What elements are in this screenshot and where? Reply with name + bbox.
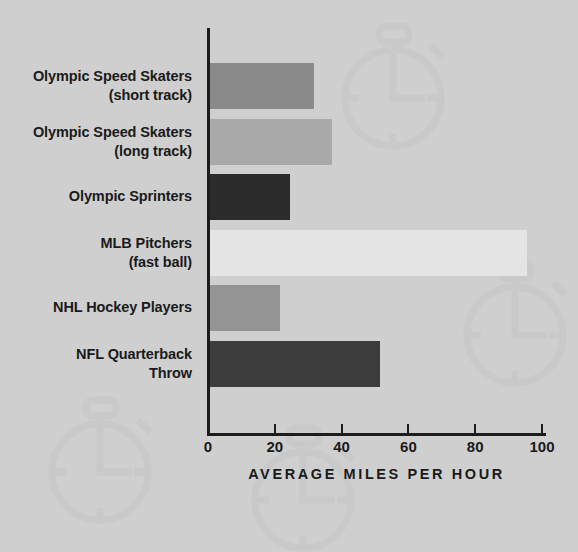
bar-fill xyxy=(210,174,290,220)
x-tick-60 xyxy=(407,424,409,433)
x-tick-20 xyxy=(274,424,276,433)
bar-1 xyxy=(210,63,314,109)
plot-area xyxy=(207,28,544,433)
category-label-line1: NHL Hockey Players xyxy=(0,298,192,317)
category-label-line1: Olympic Speed Skaters xyxy=(0,123,192,142)
x-axis-title: AVERAGE MILES PER HOUR xyxy=(207,466,546,482)
category-label-line2: Throw xyxy=(0,364,192,383)
bar-6 xyxy=(210,341,380,387)
bar-fill xyxy=(210,119,332,165)
x-tick-label-100: 100 xyxy=(529,438,554,455)
x-tick-label-80: 80 xyxy=(467,438,484,455)
bar-fill xyxy=(210,230,527,276)
category-label-line2: (long track) xyxy=(0,142,192,161)
category-label-line1: NFL Quarterback xyxy=(0,345,192,364)
category-label-line1: Olympic Sprinters xyxy=(0,187,192,206)
category-label-line2: (short track) xyxy=(0,86,192,105)
category-label-line1: MLB Pitchers xyxy=(0,234,192,253)
x-tick-label-40: 40 xyxy=(333,438,350,455)
x-axis-ticks xyxy=(207,424,546,434)
category-axis-labels: Olympic Speed Skaters(short track)Olympi… xyxy=(0,28,192,433)
bar-4 xyxy=(210,230,527,276)
x-tick-label-60: 60 xyxy=(400,438,417,455)
bar-2 xyxy=(210,119,332,165)
category-label-1: Olympic Speed Skaters(short track) xyxy=(0,67,192,105)
category-label-line2: (fast ball) xyxy=(0,253,192,272)
x-tick-80 xyxy=(474,424,476,433)
x-tick-label-0: 0 xyxy=(204,438,212,455)
category-label-4: MLB Pitchers(fast ball) xyxy=(0,234,192,272)
bar-3 xyxy=(210,174,290,220)
category-label-6: NFL QuarterbackThrow xyxy=(0,345,192,383)
x-tick-40 xyxy=(341,424,343,433)
bar-5 xyxy=(210,285,280,331)
bar-fill xyxy=(210,63,314,109)
category-label-2: Olympic Speed Skaters(long track) xyxy=(0,123,192,161)
category-label-5: NHL Hockey Players xyxy=(0,298,192,317)
category-label-line1: Olympic Speed Skaters xyxy=(0,67,192,86)
bar-fill xyxy=(210,285,280,331)
x-tick-label-20: 20 xyxy=(266,438,283,455)
bar-fill xyxy=(210,341,380,387)
category-label-3: Olympic Sprinters xyxy=(0,187,192,206)
x-tick-100 xyxy=(541,424,543,433)
bar-series xyxy=(210,28,544,433)
x-tick-0 xyxy=(207,424,209,433)
x-axis-tick-labels: 020406080100 xyxy=(207,438,546,460)
